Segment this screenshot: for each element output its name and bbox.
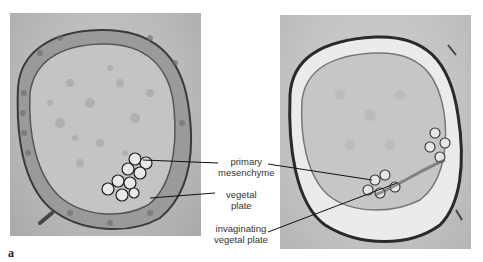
label-line-2: vegetal plate bbox=[214, 234, 268, 245]
label-line-1: invaginating bbox=[214, 223, 268, 234]
label-invaginating-vegetal-plate: invaginating vegetal plate bbox=[214, 223, 268, 245]
label-line-2: mesenchyme bbox=[218, 167, 275, 178]
label-vegetal-plate: vegetal plate bbox=[226, 189, 257, 211]
label-primary-mesenchyme: primary mesenchyme bbox=[218, 156, 275, 178]
label-line-2: plate bbox=[226, 200, 257, 211]
panel-letter: a bbox=[8, 246, 14, 261]
label-line-1: vegetal bbox=[226, 189, 257, 200]
label-line-1: primary bbox=[218, 156, 275, 167]
